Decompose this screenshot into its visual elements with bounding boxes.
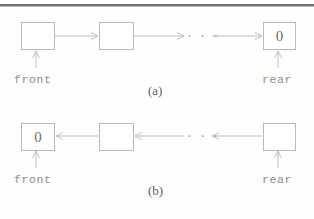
pointer-label-rear-a: rear bbox=[262, 73, 292, 86]
panel-caption-b: (b) bbox=[148, 183, 163, 199]
node-box bbox=[263, 123, 296, 151]
node-box bbox=[99, 22, 134, 50]
ellipsis-a: · · · bbox=[187, 30, 221, 44]
node-box bbox=[21, 22, 55, 50]
ellipsis-b: · · · bbox=[187, 130, 221, 144]
pointer-label-front-a: front bbox=[14, 73, 52, 86]
pointer-label-rear-b: rear bbox=[262, 173, 292, 186]
node-box-terminator: 0 bbox=[21, 123, 55, 151]
page-top-rule-shadow bbox=[0, 6, 314, 7]
node-box bbox=[99, 123, 134, 151]
panel-caption-a: (a) bbox=[148, 83, 162, 99]
pointer-label-front-b: front bbox=[14, 173, 52, 186]
figure-container: · · · 0 front rear (a) 0 · · · front rea… bbox=[0, 0, 314, 219]
node-box-terminator: 0 bbox=[263, 22, 296, 50]
